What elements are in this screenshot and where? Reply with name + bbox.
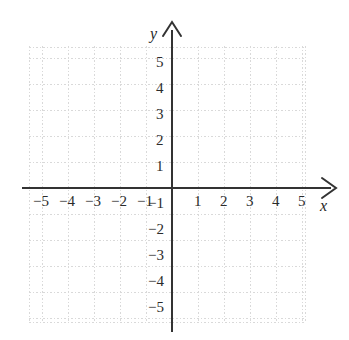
x-tick-label--5: −5 bbox=[33, 194, 49, 209]
axis-lines bbox=[22, 22, 336, 332]
coordinate-plane-figure: y x −5 −4 −3 −2 −1 1 2 3 4 5 5 4 3 2 1 −… bbox=[0, 0, 349, 340]
y-tick-label-4: 4 bbox=[156, 81, 164, 96]
x-tick-label-5: 5 bbox=[298, 194, 306, 209]
y-tick-label--5: −5 bbox=[148, 300, 164, 315]
y-tick-label-5: 5 bbox=[156, 55, 164, 70]
coordinate-plane-svg bbox=[0, 0, 349, 340]
y-tick-label-2: 2 bbox=[156, 133, 164, 148]
y-tick-label--1: −1 bbox=[148, 196, 164, 211]
x-tick-label-4: 4 bbox=[272, 194, 280, 209]
y-tick-label-3: 3 bbox=[156, 107, 164, 122]
y-tick-label-1: 1 bbox=[156, 159, 164, 174]
y-tick-label--4: −4 bbox=[148, 274, 164, 289]
grid-lines bbox=[29, 46, 305, 322]
x-tick-label--4: −4 bbox=[59, 194, 75, 209]
x-tick-label-3: 3 bbox=[246, 194, 254, 209]
x-tick-label--3: −3 bbox=[85, 194, 101, 209]
x-axis-label: x bbox=[320, 198, 327, 214]
x-tick-label--2: −2 bbox=[111, 194, 127, 209]
x-tick-label-2: 2 bbox=[220, 194, 228, 209]
y-tick-label--3: −3 bbox=[148, 248, 164, 263]
x-tick-label-1: 1 bbox=[194, 194, 202, 209]
y-tick-label--2: −2 bbox=[148, 222, 164, 237]
y-axis-label: y bbox=[150, 26, 157, 42]
